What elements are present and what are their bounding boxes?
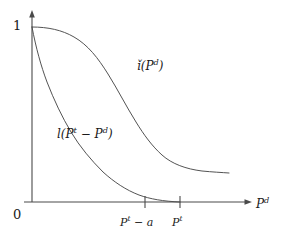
- upper-label-tail: ): [159, 59, 164, 73]
- y-axis-top-label: 1: [13, 19, 21, 32]
- x-axis-label: Pd: [256, 196, 269, 210]
- curve-label-lower-convex: l(Pt − Pd): [57, 126, 113, 140]
- x-axis-label-base: P: [256, 197, 264, 211]
- plot-canvas: [0, 0, 286, 242]
- x-tick-label-pt: Pt: [172, 215, 182, 228]
- figure-container: 1 0 Pd Pt − a Pt ǐ(Pd) l(Pt − Pd): [0, 0, 286, 242]
- lower-label-main: l(P: [57, 127, 74, 141]
- lower-label-tail: ): [108, 127, 113, 141]
- upper-label-main: (P: [141, 59, 154, 73]
- tick1-tail: − a: [130, 216, 153, 229]
- x-tick-label-pt-minus-a: Pt − a: [120, 215, 153, 228]
- curve-lower-convex: [32, 27, 180, 202]
- curve-upper-sigmoid: [32, 27, 229, 173]
- lower-label-mid: − P: [77, 127, 103, 141]
- tick2-superscript: t: [179, 214, 182, 223]
- y-axis-zero-label: 0: [13, 208, 21, 221]
- curve-label-upper-sigmoid: ǐ(Pd): [137, 58, 164, 72]
- y-axis-arrowhead: [29, 10, 35, 18]
- x-axis-label-superscript: d: [264, 195, 269, 205]
- x-axis-arrowhead: [245, 199, 253, 205]
